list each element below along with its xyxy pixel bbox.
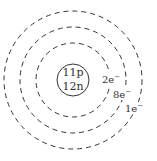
- protons-label: 11p: [62, 66, 83, 79]
- atom-diagram: 11p 12n 2e− 8e− 1e−: [0, 0, 157, 161]
- neutrons-label: 12n: [62, 80, 83, 93]
